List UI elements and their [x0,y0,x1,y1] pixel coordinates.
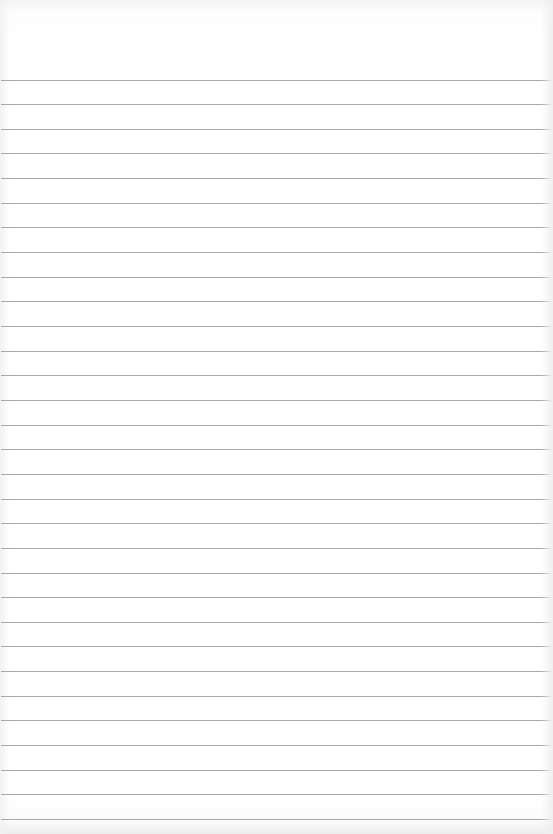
ruled-line [1,277,551,278]
ruled-line [1,153,551,154]
ruled-line [1,326,551,327]
ruled-line [1,622,551,623]
ruled-line [1,449,551,450]
ruled-line [1,80,551,81]
lined-paper-page [0,0,553,834]
ruled-line [1,646,551,647]
ruled-line [1,227,551,228]
ruled-line [1,720,551,721]
ruled-line [1,375,551,376]
ruled-lines [0,0,553,834]
ruled-line [1,597,551,598]
ruled-line [1,400,551,401]
ruled-line [1,178,551,179]
ruled-line [1,671,551,672]
ruled-line [1,745,551,746]
ruled-line [1,770,551,771]
ruled-line [1,696,551,697]
ruled-line [1,819,551,820]
ruled-line [1,499,551,500]
ruled-line [1,474,551,475]
ruled-line [1,104,551,105]
ruled-line [1,548,551,549]
ruled-line [1,351,551,352]
ruled-line [1,252,551,253]
ruled-line [1,425,551,426]
ruled-line [1,129,551,130]
ruled-line [1,794,551,795]
ruled-line [1,203,551,204]
ruled-line [1,573,551,574]
ruled-line [1,523,551,524]
ruled-line [1,301,551,302]
